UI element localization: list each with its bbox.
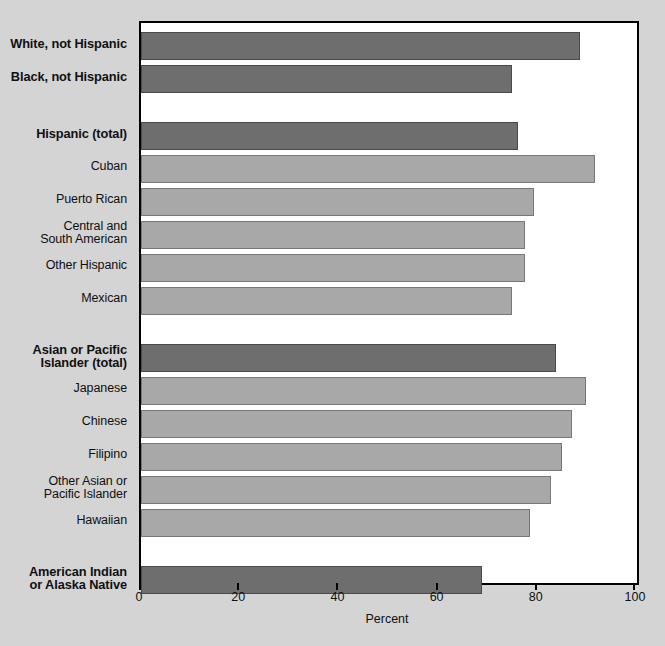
bar — [141, 32, 580, 60]
bar — [141, 443, 562, 471]
bar — [141, 188, 534, 216]
plot-area — [141, 23, 637, 583]
x-axis-tick — [633, 583, 635, 590]
category-label: Other Hispanic — [46, 259, 127, 273]
x-axis-tick — [535, 583, 537, 590]
x-axis-tick-label: 60 — [430, 590, 444, 604]
category-label: Black, not Hispanic — [11, 70, 127, 84]
bar — [141, 254, 525, 282]
x-axis-tick — [436, 583, 438, 590]
category-label: Central and South American — [40, 220, 127, 247]
category-label: American Indian or Alaska Native — [29, 565, 127, 592]
category-label: White, not Hispanic — [10, 37, 127, 51]
x-axis-tick-label: 80 — [529, 590, 543, 604]
category-label: Japanese — [74, 382, 127, 396]
x-axis-tick-label: 100 — [625, 590, 646, 604]
x-axis-tick — [237, 583, 239, 590]
bar — [141, 377, 586, 405]
category-label: Hispanic (total) — [36, 127, 127, 141]
bar-chart: White, not HispanicBlack, not HispanicHi… — [0, 0, 665, 646]
category-label: Filipino — [88, 448, 127, 462]
x-axis-tick — [139, 583, 141, 590]
category-label: Puerto Rican — [56, 193, 127, 207]
x-axis-tick-label: 20 — [231, 590, 245, 604]
bar — [141, 155, 595, 183]
x-axis-title: Percent — [139, 612, 635, 626]
x-axis-tick-label: 0 — [136, 590, 143, 604]
bar — [141, 221, 525, 249]
x-axis-tick-labels: 020406080100 — [139, 590, 635, 608]
bar — [141, 410, 572, 438]
category-label: Mexican — [81, 292, 127, 306]
bar — [141, 476, 551, 504]
bar — [141, 122, 518, 150]
category-label: Hawaiian — [76, 514, 127, 528]
x-axis-tick — [336, 583, 338, 590]
bar — [141, 344, 556, 372]
bar — [141, 65, 512, 93]
category-label: Asian or Pacific Islander (total) — [33, 343, 127, 370]
category-label: Chinese — [82, 415, 127, 429]
plot-frame — [139, 21, 639, 585]
category-label-column: White, not HispanicBlack, not HispanicHi… — [0, 21, 133, 581]
x-axis-tick-label: 40 — [330, 590, 344, 604]
category-label: Other Asian or Pacific Islander — [44, 475, 127, 502]
category-label: Cuban — [91, 160, 127, 174]
bar — [141, 509, 530, 537]
bar — [141, 287, 512, 315]
